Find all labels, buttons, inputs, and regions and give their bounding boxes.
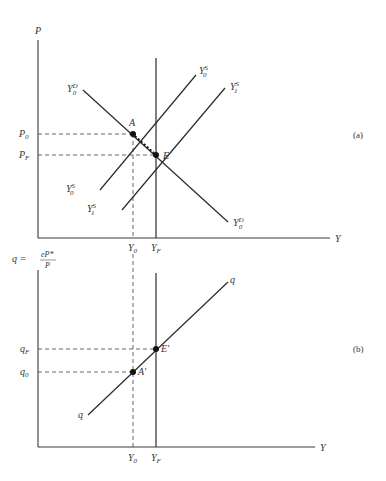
y-axis-label-a: Y bbox=[335, 233, 342, 244]
supply1-label-bottom: YS1 bbox=[87, 202, 97, 217]
demand-label-top: YD0 bbox=[67, 82, 78, 97]
p0-label: P0 bbox=[18, 128, 29, 141]
yf-label-b: YF bbox=[151, 452, 162, 465]
panel-a-tag: (a) bbox=[353, 130, 363, 140]
supply-curve-y0s bbox=[100, 75, 196, 190]
qf-label: qF bbox=[20, 343, 30, 356]
y-axis-label-b: Y bbox=[320, 442, 327, 453]
q-axis-denominator: P bbox=[44, 261, 50, 270]
pf-label: PF bbox=[18, 149, 30, 162]
diagram: P Y A E P0 PF Y0 YF YD0 YD0 YS0 YS0 YS1 … bbox=[0, 0, 386, 481]
point-e-prime-label: E' bbox=[160, 343, 170, 354]
supply-curve-y1s bbox=[122, 88, 225, 210]
panel-b: q = eP* P Y q q E' A' qF q0 Y0 YF (b) bbox=[12, 250, 364, 465]
point-e-prime bbox=[153, 346, 159, 352]
point-a-label: A bbox=[128, 117, 136, 128]
p-axis-label: P bbox=[34, 25, 41, 36]
panel-b-tag: (b) bbox=[353, 344, 364, 354]
point-a-prime-label: A' bbox=[137, 366, 147, 377]
point-e-label: E bbox=[162, 150, 169, 161]
supply0-label-top: YS0 bbox=[199, 64, 209, 79]
point-a bbox=[130, 131, 136, 137]
supply1-label-top: YS1 bbox=[230, 80, 240, 95]
point-e bbox=[153, 152, 159, 158]
demand-label-bottom: YD0 bbox=[233, 216, 244, 231]
q-axis-label: q = bbox=[12, 253, 26, 264]
yf-label-a: YF bbox=[151, 242, 162, 255]
q-curve-label-bottom: q bbox=[78, 409, 83, 420]
supply0-label-bottom: YS0 bbox=[66, 182, 76, 197]
q-axis-numerator: eP* bbox=[41, 250, 53, 259]
q0-label: q0 bbox=[20, 366, 29, 379]
panel-a: P Y A E P0 PF Y0 YF YD0 YD0 YS0 YS0 YS1 … bbox=[18, 25, 363, 255]
q-curve-label-top: q bbox=[230, 274, 235, 285]
y0-label-a: Y0 bbox=[128, 242, 138, 255]
point-a-prime bbox=[130, 369, 136, 375]
y0-label-b: Y0 bbox=[128, 452, 138, 465]
